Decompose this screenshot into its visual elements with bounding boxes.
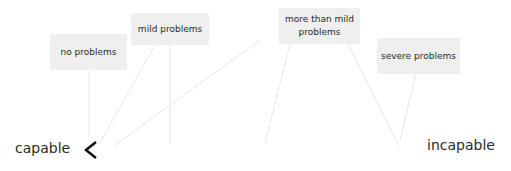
category-severe-problems: severe problems	[377, 38, 460, 74]
category-label: mild problems	[138, 23, 202, 36]
category-label: no problems	[61, 46, 117, 59]
category-more-than-mild-problems: more than mild problems	[279, 8, 360, 44]
category-mild-problems: mild problems	[131, 13, 209, 45]
category-label: severe problems	[381, 50, 456, 63]
category-no-problems: no problems	[50, 34, 127, 70]
category-label: more than mild problems	[285, 13, 354, 39]
incapable-label: incapable	[427, 137, 495, 153]
capable-label: capable	[15, 140, 70, 156]
